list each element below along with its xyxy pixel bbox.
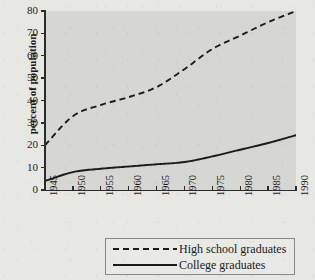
x-tick-mark	[128, 186, 129, 191]
x-tick-mark	[184, 186, 185, 191]
plot-svg	[45, 11, 296, 190]
y-tick-mark	[41, 10, 46, 11]
y-tick-mark	[41, 100, 46, 101]
y-tick-mark	[41, 122, 46, 123]
legend-swatch-solid	[112, 259, 178, 271]
x-tick-label: 1960	[133, 175, 143, 196]
y-tick-mark	[41, 55, 46, 56]
y-tick-label: 0	[12, 184, 38, 195]
x-tick-label: 1965	[161, 175, 171, 196]
y-tick-label: 60	[12, 50, 38, 61]
x-tick-mark	[295, 186, 296, 191]
y-tick-label: 30	[12, 117, 38, 128]
legend-item-high-school-graduates: High school graduates	[106, 241, 296, 257]
x-tick-mark	[44, 186, 45, 191]
x-tick-mark	[156, 186, 157, 191]
chart-legend: High school graduates College graduates	[105, 238, 295, 275]
y-tick-mark	[41, 145, 46, 146]
x-tick-mark	[212, 186, 213, 191]
x-tick-label: 1975	[216, 175, 226, 196]
y-tick-label: 20	[12, 139, 38, 150]
y-tick-label: 50	[12, 72, 38, 83]
x-tick-label: 1990	[300, 175, 310, 196]
y-tick-label: 40	[12, 95, 38, 106]
legend-label-high-school-graduates: High school graduates	[179, 242, 286, 257]
x-tick-label: 1950	[77, 175, 87, 196]
x-tick-mark	[267, 186, 268, 191]
x-tick-mark	[72, 186, 73, 191]
y-tick-mark	[41, 33, 46, 34]
x-tick-label: 1945	[49, 175, 59, 196]
legend-label-college-graduates: College graduates	[179, 258, 265, 273]
legend-item-college-graduates: College graduates	[106, 257, 296, 273]
y-tick-label: 80	[12, 5, 38, 16]
y-tick-mark	[41, 77, 46, 78]
x-tick-label: 1970	[188, 175, 198, 196]
y-tick-mark	[41, 167, 46, 168]
y-tick-label: 70	[12, 27, 38, 38]
x-tick-mark	[240, 186, 241, 191]
x-tick-label: 1980	[244, 175, 254, 196]
plot-area	[45, 11, 296, 190]
x-tick-label: 1955	[105, 175, 115, 196]
legend-swatch-dashed	[112, 243, 178, 255]
series-line-high-school-graduates	[45, 11, 296, 145]
chart-figure: percent of population 01020304050607080 …	[0, 0, 315, 280]
y-tick-label: 10	[12, 162, 38, 173]
x-tick-label: 1985	[272, 175, 282, 196]
x-tick-mark	[100, 186, 101, 191]
